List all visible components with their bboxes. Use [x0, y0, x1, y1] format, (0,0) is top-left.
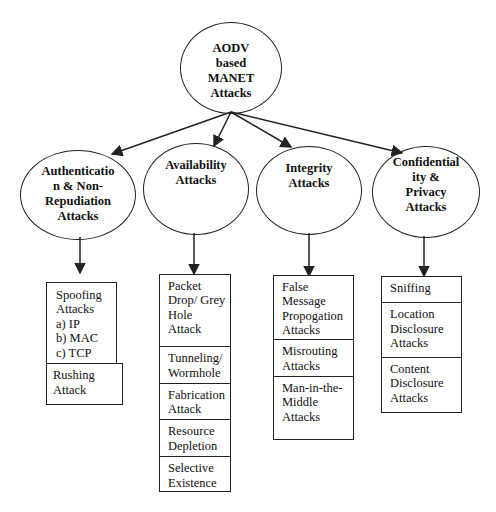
item-line: Hole [168, 308, 225, 323]
category-label-line: Privacy [393, 185, 460, 200]
item-line: b) MAC [56, 331, 111, 346]
item-line: Message [282, 294, 348, 309]
item-line: Content [390, 362, 456, 377]
attack-item-spoofing: Spoofing Attacks a) IP b) MAC c) TCP [46, 282, 117, 365]
attack-item-fabrication: Fabrication Attack [159, 383, 231, 421]
attack-item-content-disclosure: Content Disclosure Attacks [381, 357, 462, 413]
root-line: Attacks [208, 86, 255, 101]
attack-item-rushing: Rushing Attack [46, 363, 123, 405]
item-line: Attacks [282, 323, 348, 338]
attack-item-location-disclosure: Location Disclosure Attacks [381, 302, 462, 358]
confidentiality-attack-list: Sniffing Location Disclosure Attacks Con… [381, 277, 462, 413]
item-line: Selective [168, 461, 225, 476]
item-line: Misrouting [282, 344, 348, 359]
attack-item-misrouting: Misrouting Attacks [273, 339, 354, 377]
item-line: a) IP [56, 317, 111, 332]
item-line: Depletion [168, 439, 225, 454]
item-line: Resource [168, 424, 225, 439]
item-line: Drop/ Grey [168, 293, 225, 308]
category-label-line: Authenticatio [42, 164, 115, 179]
category-label-line: Availability [165, 158, 227, 173]
category-label-line: Attacks [393, 200, 460, 215]
item-line: Attack [53, 383, 117, 398]
item-line: Man-in-the- [282, 381, 348, 396]
item-line: Attacks [390, 336, 456, 351]
category-confidentiality-privacy: Confidential ity & Privacy Attacks [372, 146, 480, 238]
category-label-line: Attacks [42, 209, 115, 224]
item-line: Spoofing [56, 288, 111, 303]
root-node-aodv-manet-attacks: AODV based MANET Attacks [180, 22, 282, 114]
item-line: Sniffing [390, 281, 456, 296]
item-line: Existence [168, 476, 225, 491]
availability-attack-list: Packet Drop/ Grey Hole Attack Tunneling/… [159, 275, 231, 492]
category-label-line: Confidential [393, 155, 460, 170]
item-line: Wormhole [168, 366, 225, 381]
item-line: Middle [282, 395, 348, 410]
category-integrity: Integrity Attacks [256, 146, 362, 235]
auth-attack-list: Spoofing Attacks a) IP b) MAC c) TCP Rus… [46, 283, 117, 405]
item-line: Packet [168, 279, 225, 294]
item-line: Propogation [282, 309, 348, 324]
item-line: Attacks [282, 410, 348, 425]
attack-item-sniffing: Sniffing [381, 276, 462, 304]
item-line: Attacks [390, 391, 456, 406]
attack-item-false-message-propogation: False Message Propogation Attacks [273, 275, 354, 341]
attack-item-selective-existence: Selective Existence [159, 456, 231, 492]
attack-item-resource-depletion: Resource Depletion [159, 419, 231, 457]
item-line: False [282, 280, 348, 295]
category-label-line: n & Non- [42, 179, 115, 194]
item-line: Rushing [53, 368, 117, 383]
attack-item-man-in-the-middle: Man-in-the- Middle Attacks [273, 376, 354, 440]
item-line: Attack [168, 322, 225, 337]
item-line: Attacks [282, 359, 348, 374]
category-label-line: Repudiation [42, 194, 115, 209]
category-label-line: Attacks [285, 176, 332, 191]
attack-item-packet-drop: Packet Drop/ Grey Hole Attack [159, 274, 231, 348]
root-line: MANET [208, 71, 255, 86]
category-label-line: ity & [393, 170, 460, 185]
item-line: Tunneling/ [168, 351, 225, 366]
category-availability: Availability Attacks [143, 143, 249, 235]
category-authentication-non-repudiation: Authenticatio n & Non- Repudiation Attac… [20, 150, 136, 240]
item-line: Fabrication [168, 388, 225, 403]
item-line: Attack [168, 402, 225, 417]
item-line: Disclosure [390, 322, 456, 337]
item-line: Disclosure [390, 376, 456, 391]
item-line: Location [390, 307, 456, 322]
root-line: AODV [208, 41, 255, 56]
category-label-line: Attacks [165, 173, 227, 188]
item-line: Attacks [56, 302, 111, 317]
integrity-attack-list: False Message Propogation Attacks Misrou… [273, 276, 354, 440]
category-label-line: Integrity [285, 161, 332, 176]
item-line: c) TCP [56, 346, 111, 361]
attack-item-tunneling: Tunneling/ Wormhole [159, 346, 231, 384]
root-line: based [208, 56, 255, 71]
